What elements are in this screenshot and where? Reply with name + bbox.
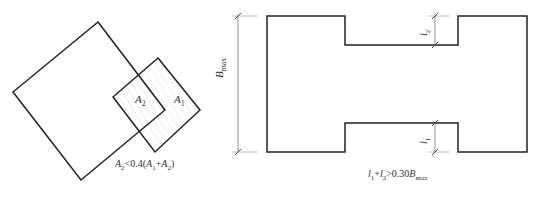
overlap-condition: A2<0.4(A1+A2) <box>115 158 174 172</box>
label-l1: l1 <box>418 138 432 144</box>
label-l2: l2 <box>418 30 432 36</box>
overlap-figure <box>13 22 200 180</box>
label-a1: A1 <box>174 93 185 108</box>
label-bmax: Bmax <box>213 58 228 78</box>
label-a2: A2 <box>135 93 146 108</box>
h-shape-outline <box>267 16 527 152</box>
diagram-canvas <box>0 0 539 197</box>
h-shape-condition: l1+l2>0.30Bmax <box>368 168 428 182</box>
h-shape-figure <box>232 13 527 155</box>
